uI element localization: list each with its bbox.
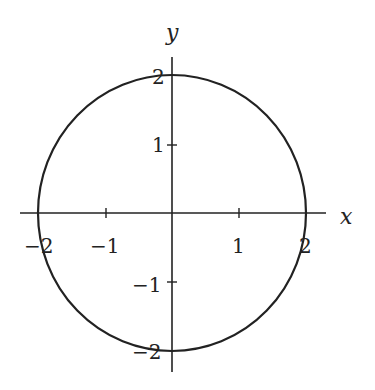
y-tick-label-2: 2 xyxy=(152,65,165,89)
x-tick-label-1: 1 xyxy=(232,234,245,258)
x-axis-label: x xyxy=(340,204,353,229)
circle-plot: x y −2 −1 1 2 2 1 −1 −2 xyxy=(0,0,375,390)
y-tick-label-minus-2: −2 xyxy=(132,340,161,364)
y-axis-label: y xyxy=(165,20,179,45)
x-tick-label-2: 2 xyxy=(299,234,312,258)
x-tick-label-minus-2: −2 xyxy=(24,234,53,258)
y-tick-label-1: 1 xyxy=(152,133,165,157)
y-tick-label-minus-1: −1 xyxy=(132,273,161,297)
x-tick-label-minus-1: −1 xyxy=(90,234,119,258)
